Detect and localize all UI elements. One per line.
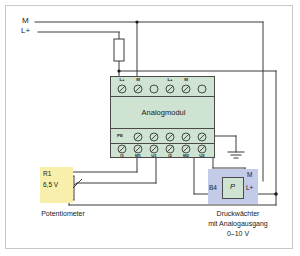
pressure-switch-caption-line1: Druckwächter (183, 209, 293, 218)
module-bottom-terminal-label-i1: I1 (115, 154, 129, 158)
potentiometer-caption: Potentiometer (8, 209, 118, 218)
junction-dot-sensor-lplus (274, 192, 278, 196)
module-title: Analogmodul (111, 108, 216, 117)
module-top-terminal-label-0: L+ (115, 78, 129, 82)
analog-module[interactable]: L+ M L+ M Analogmodul PE (110, 76, 215, 158)
pressure-switch-symbol-label: P (230, 183, 235, 191)
module-top-terminal-strip: L+ M L+ M (111, 77, 214, 97)
pressure-switch-designator: B4 (209, 185, 217, 192)
fuse-symbol (114, 39, 124, 61)
module-body: Analogmodul (111, 97, 214, 129)
potentiometer-designator: R1 (43, 171, 51, 178)
pressure-switch-terminal-lplus: L+ (246, 185, 253, 192)
rail-label-m: M (22, 17, 29, 25)
module-pe-strip: PE (111, 129, 214, 144)
module-top-terminal-label-3: L+ (163, 78, 177, 82)
module-top-terminal-label-4: M (179, 78, 193, 82)
diagram-canvas: M L+ L+ M L+ M Analogm (0, 0, 300, 256)
pressure-switch-caption-line2: mit Analogausgang (183, 219, 293, 228)
module-bottom-terminal-label-m1: M1 (131, 154, 145, 158)
module-bottom-terminal-label-i2: I2 (163, 154, 177, 158)
potentiometer-value: 6,5 V (43, 182, 58, 189)
pe-terminal-screws (111, 129, 216, 144)
module-bottom-terminal-label-m2: M2 (179, 154, 193, 158)
module-top-terminal-label-1: M (131, 78, 145, 82)
module-bottom-terminal-label-u1: U1 (147, 154, 161, 158)
rail-label-lplus: L+ (21, 27, 30, 35)
module-bottom-terminal-strip: I1 M1 U1 I2 M2 U2 (111, 144, 214, 159)
pressure-switch-caption-line3: 0–10 V (183, 229, 293, 238)
junction-dot-m-rail (135, 20, 138, 23)
junction-dot-lplus-branch (117, 69, 120, 72)
pressure-switch-terminal-m: M (247, 172, 252, 179)
module-bottom-terminal-label-u2: U2 (195, 154, 209, 158)
